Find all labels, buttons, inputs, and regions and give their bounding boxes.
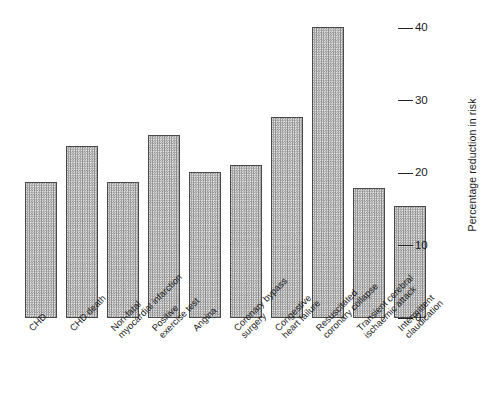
x-axis-labels: CHDCHD deathNon-fatalmyocardial infarcti… <box>0 318 420 415</box>
bar <box>66 146 98 318</box>
tick-label: 10 <box>415 240 427 252</box>
tick-mark <box>398 173 413 174</box>
tick-label: 30 <box>415 95 427 107</box>
bar <box>25 182 57 318</box>
bar <box>230 165 262 318</box>
tick-label: 20 <box>415 167 427 179</box>
bar-chart-figure: 403020100 Percentage reduction in risk C… <box>0 0 498 415</box>
plot-area <box>0 0 400 330</box>
bar <box>312 27 344 318</box>
y-axis-tick: 40 <box>398 22 427 34</box>
tick-mark <box>398 28 413 29</box>
y-axis-title-label: Percentage reduction in risk <box>466 99 478 232</box>
tick-label: 40 <box>415 22 427 34</box>
y-axis-title: Percentage reduction in risk <box>462 0 482 330</box>
y-axis-tick: 30 <box>398 95 427 107</box>
tick-mark <box>398 100 413 101</box>
y-axis-tick: 20 <box>398 167 427 179</box>
tick-mark <box>398 245 413 246</box>
y-axis-tick: 10 <box>398 240 427 252</box>
